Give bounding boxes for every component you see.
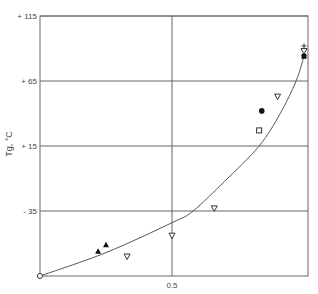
open-square-marker (257, 128, 262, 133)
open-triangle-down-marker (169, 233, 175, 239)
open-triangle-down-marker (124, 254, 130, 260)
axis-labels: + 115+ 65+ 15- 350.5Tg, °C (4, 12, 178, 290)
grid (40, 16, 308, 276)
x-tick-label: 0.5 (166, 281, 178, 290)
y-tick-label: + 65 (21, 77, 37, 86)
y-tick-label: - 35 (23, 207, 37, 216)
open-circle-marker (38, 274, 43, 279)
filled-triangle-up-marker (95, 248, 101, 254)
filled-circle-marker (259, 108, 265, 114)
open-triangle-down-marker (301, 49, 307, 55)
filled-square-marker (302, 54, 307, 59)
y-axis-label: Tg, °C (4, 131, 14, 157)
y-tick-label: + 115 (17, 12, 37, 21)
filled-triangle-up-marker (103, 242, 109, 248)
chart: + 115+ 65+ 15- 350.5Tg, °C (0, 0, 318, 294)
open-triangle-down-marker (275, 94, 281, 100)
y-tick-label: + 15 (21, 142, 37, 151)
plus-marker (302, 43, 307, 48)
